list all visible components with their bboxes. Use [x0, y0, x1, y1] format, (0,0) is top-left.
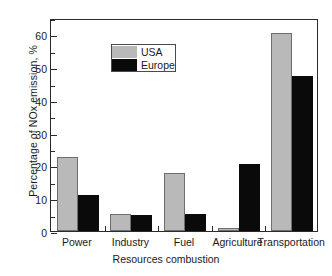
x-axis-title: Resources combustion — [0, 253, 332, 265]
bar-europe-power — [78, 195, 99, 231]
y-axis-tick-label: 30 — [35, 129, 47, 141]
x-axis-category-industry: Industry — [112, 236, 149, 248]
chart-figure: Percentage of NOx emission, % 0102030405… — [0, 0, 332, 276]
y-axis-tick-label: 60 — [35, 30, 47, 42]
bar-europe-fuel — [185, 214, 206, 231]
plot-area: 0102030405060 USA Europe — [50, 19, 318, 232]
x-axis-category-power: Power — [62, 236, 92, 248]
bar-europe-industry — [131, 215, 152, 231]
legend-swatch-europe — [112, 59, 137, 71]
y-axis-tick-label: 20 — [35, 161, 47, 173]
bar-usa-fuel — [164, 173, 185, 231]
bar-usa-industry — [110, 214, 131, 231]
legend-item-europe: Europe — [112, 58, 175, 71]
y-axis-major-tick — [51, 233, 57, 234]
y-axis-tick-label: 0 — [41, 227, 47, 239]
x-axis-category-agriculture: Agriculture — [212, 236, 262, 248]
legend-label-usa: USA — [137, 46, 163, 58]
x-axis-category-transportation: Transportation — [258, 236, 325, 248]
y-axis-tick-label: 50 — [35, 63, 47, 75]
bar-europe-transportation — [292, 76, 313, 231]
bar-usa-power — [57, 157, 78, 231]
y-axis-tick-label: 40 — [35, 96, 47, 108]
x-axis-category-fuel: Fuel — [174, 236, 194, 248]
legend-item-usa: USA — [112, 45, 175, 58]
bar-usa-agriculture — [218, 228, 239, 231]
bar-usa-transportation — [271, 33, 292, 231]
legend-swatch-usa — [112, 46, 137, 58]
bar-series-container — [51, 20, 317, 231]
chart-legend: USA Europe — [111, 44, 176, 72]
y-axis-tick-label: 10 — [35, 194, 47, 206]
legend-label-europe: Europe — [137, 59, 175, 71]
bar-europe-agriculture — [239, 164, 260, 231]
